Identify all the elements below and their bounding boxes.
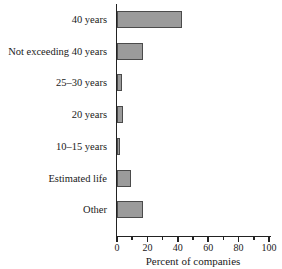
category-label: 40 years: [72, 11, 107, 28]
category-label: Not exceeding 40 years: [8, 43, 107, 60]
x-axis-tick-label: 100: [262, 243, 277, 253]
x-axis-minor-tick: [162, 237, 164, 240]
x-axis-tick-label: 40: [173, 243, 183, 253]
x-axis-tick-label: 0: [115, 243, 120, 253]
x-axis-minor-tick: [253, 237, 255, 240]
category-label-column: 40 yearsNot exceeding 40 years25–30 year…: [0, 4, 112, 237]
bar: [117, 138, 120, 155]
category-label: 25–30 years: [56, 74, 107, 91]
x-axis-tick-label: 80: [234, 243, 244, 253]
x-axis-title: Percent of companies: [117, 255, 269, 267]
x-axis-minor-tick: [131, 237, 133, 240]
bar: [117, 11, 182, 28]
bar-chart-figure: 40 yearsNot exceeding 40 years25–30 year…: [0, 0, 282, 269]
category-label: 20 years: [72, 106, 107, 123]
x-axis-minor-tick: [192, 237, 194, 240]
bar: [117, 201, 143, 218]
bar: [117, 43, 143, 60]
x-axis-tick-label: 20: [142, 243, 152, 253]
category-label: Other: [83, 201, 107, 218]
category-label: Estimated life: [48, 170, 107, 187]
bar: [117, 170, 131, 187]
bar: [117, 74, 122, 91]
category-label: 10–15 years: [56, 138, 107, 155]
plot-area: 020406080100: [117, 4, 269, 237]
x-axis-tick-label: 60: [203, 243, 213, 253]
x-axis-minor-tick: [223, 237, 225, 240]
bar: [117, 106, 123, 123]
